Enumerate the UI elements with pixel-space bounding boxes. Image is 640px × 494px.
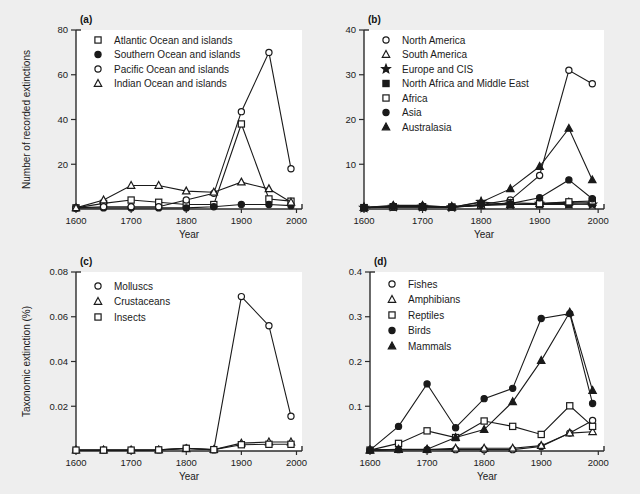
y-tick-label: 0.1: [349, 401, 362, 412]
panel-letter: (c): [80, 256, 92, 267]
x-tick-label: 1600: [65, 215, 86, 226]
panel-c-svg: (c)0.020.040.060.0816001700180019002000Y…: [8, 250, 320, 493]
legend-label: Australasia: [402, 122, 452, 133]
data-point: [128, 204, 134, 210]
x-tick-label: 2000: [286, 215, 307, 226]
panel-letter: (a): [80, 14, 92, 25]
data-point: [238, 442, 244, 448]
data-point: [538, 431, 544, 437]
x-axis-label: Year: [477, 471, 498, 482]
data-point: [183, 445, 189, 451]
legend-label: Crustaceans: [114, 296, 170, 307]
y-axis-label: Taxonomic extinction (%): [21, 306, 32, 417]
x-tick-label: 1900: [531, 457, 552, 468]
legend-marker: [95, 314, 101, 320]
data-point: [481, 396, 487, 402]
legend-label: Amphibians: [408, 294, 460, 305]
data-point: [537, 172, 543, 178]
data-point: [589, 400, 595, 406]
x-tick-label: 1600: [65, 457, 86, 468]
data-point: [589, 423, 595, 429]
legend-label: Insects: [114, 312, 146, 323]
data-point: [507, 201, 513, 207]
data-point: [510, 385, 516, 391]
data-point: [537, 195, 543, 201]
data-point: [238, 109, 244, 115]
legend-label: Southern Ocean and islands: [114, 49, 240, 60]
legend-marker: [95, 51, 101, 57]
data-point: [566, 67, 572, 73]
y-tick-label: 40: [345, 24, 356, 35]
data-point: [424, 381, 430, 387]
plot-area: [76, 272, 302, 451]
data-point: [156, 204, 162, 210]
legend-label: Birds: [408, 325, 431, 336]
data-point: [266, 441, 272, 447]
data-point: [211, 447, 217, 453]
panel-letter: (b): [368, 14, 381, 25]
legend-label: Reptiles: [408, 310, 444, 321]
legend-marker: [383, 37, 389, 43]
data-point: [288, 413, 294, 419]
data-point: [589, 81, 595, 87]
y-tick-label: 60: [57, 69, 68, 80]
data-point: [567, 403, 573, 409]
x-tick-label: 2000: [588, 215, 609, 226]
x-tick-label: 1900: [231, 457, 252, 468]
legend-marker: [383, 95, 389, 101]
legend-label: Fishes: [408, 279, 437, 290]
data-point: [288, 441, 294, 447]
x-tick-label: 1800: [176, 215, 197, 226]
data-point: [288, 166, 294, 172]
data-point: [100, 447, 106, 453]
data-point: [510, 423, 516, 429]
data-point: [566, 199, 572, 205]
legend-marker: [95, 37, 101, 43]
x-axis-label: Year: [474, 229, 495, 240]
panel-d: (d)0.10.20.30.416001700180019002000YearF…: [322, 250, 634, 493]
x-tick-label: 1700: [417, 457, 438, 468]
legend-label: Atlantic Ocean and islands: [114, 35, 232, 46]
legend-marker: [95, 283, 101, 289]
y-tick-label: 20: [57, 159, 68, 170]
x-tick-label: 1700: [121, 215, 142, 226]
data-point: [238, 121, 244, 127]
legend-label: Europe and CIS: [402, 64, 473, 75]
panel-b-svg: (b)1020304016001700180019002000YearNorth…: [322, 8, 634, 251]
data-point: [238, 201, 244, 207]
data-point: [238, 294, 244, 300]
data-point: [156, 447, 162, 453]
x-tick-label: 1700: [121, 457, 142, 468]
panel-a-svg: (a)2040608016001700180019002000YearNumbe…: [8, 8, 320, 251]
panel-d-svg: (d)0.10.20.30.416001700180019002000YearF…: [322, 250, 634, 493]
y-tick-label: 0.08: [50, 266, 69, 277]
y-tick-label: 0.02: [50, 401, 69, 412]
legend-label: Indian Ocean and islands: [114, 78, 227, 89]
x-tick-label: 1800: [471, 215, 492, 226]
data-point: [538, 315, 544, 321]
legend-label: North Africa and Middle East: [402, 78, 529, 89]
figure-canvas: (a)2040608016001700180019002000YearNumbe…: [0, 0, 640, 494]
data-point: [183, 205, 189, 211]
panel-a: (a)2040608016001700180019002000YearNumbe…: [8, 8, 320, 251]
data-point: [566, 177, 572, 183]
x-tick-label: 2000: [588, 457, 609, 468]
x-tick-label: 1800: [176, 457, 197, 468]
x-axis-label: Year: [179, 471, 200, 482]
legend-marker: [383, 109, 389, 115]
data-point: [100, 204, 106, 210]
legend-label: Molluscs: [114, 281, 153, 292]
panel-letter: (d): [374, 256, 387, 267]
data-point: [453, 425, 459, 431]
x-tick-label: 1600: [359, 457, 380, 468]
legend-label: Asia: [402, 107, 422, 118]
y-tick-label: 10: [345, 159, 356, 170]
data-point: [589, 196, 595, 202]
legend-label: Africa: [402, 93, 428, 104]
y-tick-label: 20: [345, 114, 356, 125]
legend-marker: [95, 66, 101, 72]
data-point: [395, 423, 401, 429]
y-tick-label: 0.04: [50, 356, 69, 367]
data-point: [211, 204, 217, 210]
data-point: [481, 418, 487, 424]
